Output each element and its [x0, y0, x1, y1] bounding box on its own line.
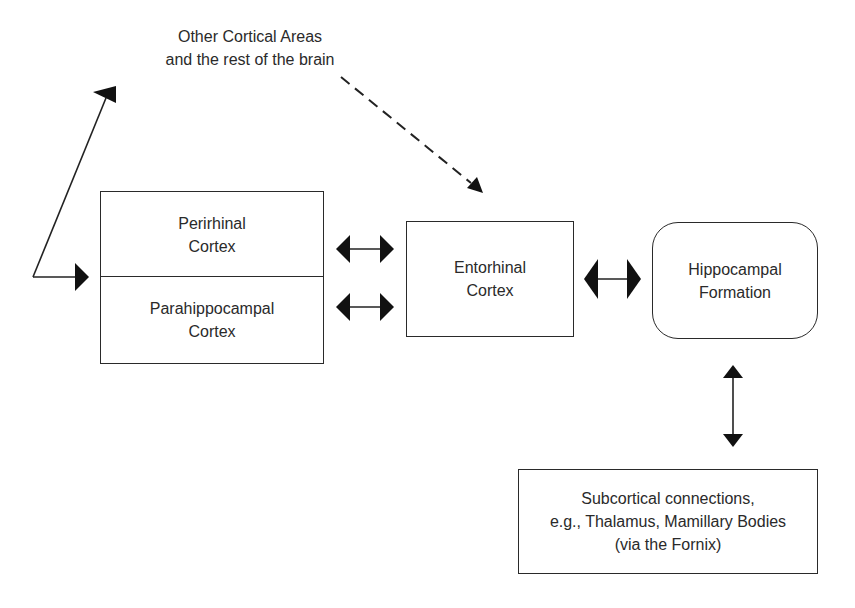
node-label: Hippocampal [688, 258, 781, 281]
node-label: Parahippocampal [150, 297, 275, 320]
node-label: Cortex [188, 235, 235, 258]
label-line: Other Cortical Areas [120, 25, 380, 48]
other-cortical-areas-label: Other Cortical Areas and the rest of the… [120, 25, 380, 71]
node-label: Cortex [466, 279, 513, 302]
node-label: e.g., Thalamus, Mamillary Bodies [550, 510, 786, 533]
bidirectional-arrow-hippocampal-subcortical [723, 365, 743, 447]
node-label: Perirhinal [178, 212, 246, 235]
bidirectional-arrow-parahippocampal-entorhinal [336, 293, 394, 321]
arrowhead-down-right-icon [467, 177, 483, 193]
dashed-arrow [341, 77, 483, 193]
bidirectional-arrow-entorhinal-hippocampal [584, 259, 641, 299]
node-label: Cortex [188, 320, 235, 343]
entorhinal-cortex-node: Entorhinal Cortex [406, 221, 574, 337]
parahippocampal-cortex-node: Parahippocampal Cortex [100, 276, 324, 364]
hippocampal-formation-node: Hippocampal Formation [652, 222, 818, 339]
node-label: Formation [699, 281, 771, 304]
subcortical-connections-node: Subcortical connections, e.g., Thalamus,… [518, 469, 818, 574]
arrowhead-right-icon [75, 263, 89, 291]
perirhinal-cortex-node: Perirhinal Cortex [100, 191, 324, 278]
node-label: Subcortical connections, [581, 487, 754, 510]
node-label: (via the Fornix) [615, 533, 722, 556]
bidirectional-arrow-perirhinal-entorhinal [336, 235, 394, 263]
label-line: and the rest of the brain [120, 48, 380, 71]
node-label: Entorhinal [454, 256, 526, 279]
